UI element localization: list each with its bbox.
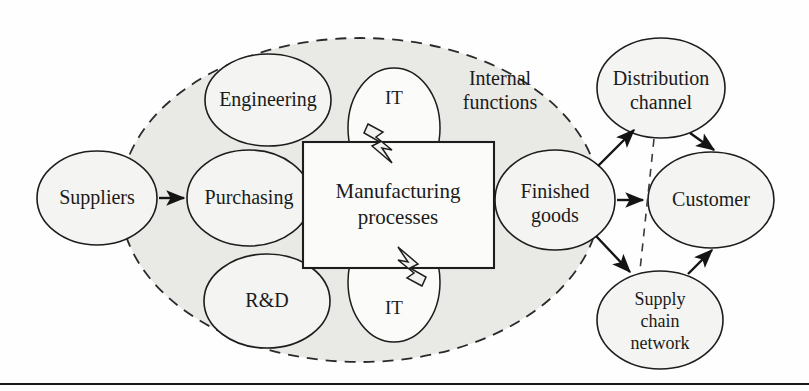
footer-rule [0,383,809,385]
arrow-finished-to-supplychain [596,236,630,272]
diagram-canvas: Suppliers Purchasing Engineering R&D Man… [0,0,809,391]
label-suppliers: Suppliers [59,186,135,209]
label-customer: Customer [672,188,750,210]
supply-chain-diagram: Suppliers Purchasing Engineering R&D Man… [0,0,809,391]
label-engineering: Engineering [219,88,317,111]
arrow-distribution-to-customer [690,133,714,150]
label-it-top: IT [385,87,403,108]
label-purchasing: Purchasing [205,186,294,209]
label-rnd: R&D [245,289,288,311]
label-it-bottom: IT [385,297,403,318]
arrow-finished-to-distribution [598,130,634,166]
arrow-supplychain-to-customer [688,250,712,274]
